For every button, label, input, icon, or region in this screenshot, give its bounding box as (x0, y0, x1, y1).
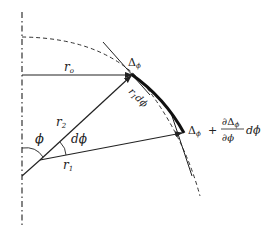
r-2-arrow (40, 76, 131, 160)
phi-angle-arc (22, 148, 43, 157)
tangent-line-bottom (170, 110, 192, 176)
r-1-arrow (40, 133, 182, 160)
r-2-label: r2 (56, 115, 67, 130)
r-1-label: r1 (63, 158, 73, 173)
arc-length-label: r1dϕ (125, 86, 150, 111)
tangent-line-top (103, 42, 150, 95)
dphi-angle-arc (60, 142, 66, 155)
origin-offset-line (22, 160, 40, 176)
phi-label: ϕ (35, 131, 44, 146)
r-o-label: ro (64, 60, 74, 75)
fraction-numerator: ∂Δϕ (222, 116, 239, 129)
dphi-label: dϕ (71, 132, 87, 146)
plus-sign: + (208, 124, 217, 137)
curved-element-diagram: ro r2 r1 ϕ dϕ r1dϕ Δϕ Δϕ + ∂Δϕ ∂ϕ dϕ (0, 0, 269, 235)
fraction-denominator: ∂ϕ (222, 132, 234, 143)
delta-phi-bottom-expression: Δϕ + ∂Δϕ ∂ϕ dϕ (188, 116, 261, 143)
fraction-tail-dphi: dϕ (246, 124, 261, 137)
delta-phi-bottom-lhs: Δϕ (188, 124, 201, 138)
delta-phi-top-label: Δϕ (128, 56, 141, 70)
